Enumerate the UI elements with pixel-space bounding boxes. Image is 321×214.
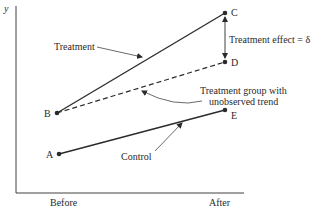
treatment-line bbox=[57, 13, 225, 113]
label-c: C bbox=[231, 7, 238, 18]
point-a bbox=[57, 152, 62, 157]
treatment-annotation: Treatment bbox=[54, 41, 95, 52]
label-a: A bbox=[46, 149, 54, 160]
treatment-effect-annotation: Treatment effect = δ bbox=[229, 34, 310, 45]
point-e bbox=[223, 108, 228, 113]
label-b: B bbox=[44, 108, 51, 119]
unobserved-annotation-line2: unobserved trend bbox=[209, 96, 278, 107]
control-line bbox=[59, 110, 225, 154]
point-d bbox=[223, 60, 228, 65]
x-tick-before: Before bbox=[50, 197, 78, 208]
x-tick-after: After bbox=[209, 197, 231, 208]
did-diagram: y Before After A B C D E Treatment Treat… bbox=[0, 0, 321, 214]
point-c bbox=[223, 11, 228, 16]
y-axis-label: y bbox=[3, 3, 9, 14]
label-d: D bbox=[231, 57, 238, 68]
unobserved-annotation-line1: Treatment group with bbox=[200, 85, 287, 96]
control-annotation: Control bbox=[121, 151, 152, 162]
label-e: E bbox=[231, 110, 237, 121]
treatment-pointer bbox=[97, 47, 142, 57]
point-b bbox=[55, 111, 60, 116]
unobserved-pointer bbox=[142, 91, 202, 103]
